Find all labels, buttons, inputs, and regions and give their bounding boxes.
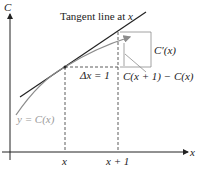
diagram-canvas [0,0,200,178]
tangent-line [20,12,146,97]
curve-y-equals-c-of-x [16,37,130,115]
derivative-label: C′(x) [154,45,176,56]
tangent-label-text: Tangent line at [60,10,128,22]
curve-label: y = C(x) [17,114,54,125]
delta-x-label: Δx = 1 [80,70,110,81]
y-axis-label: C [4,2,11,13]
x-axis-label: x [190,147,195,158]
difference-label: C(x + 1) − C(x) [123,71,193,82]
derivative-bracket [120,32,151,67]
x-plus-1-tick-label: x + 1 [106,156,129,167]
x-tick-label: x [62,156,67,167]
tangent-label-var: x [128,10,133,22]
tangent-line-label: Tangent line at x [60,11,133,22]
